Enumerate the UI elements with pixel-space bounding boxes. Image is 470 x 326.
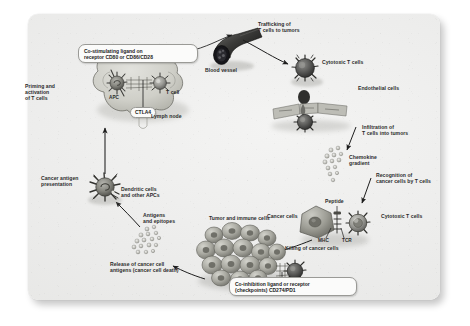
label-cancer-antigen-presentation: Cancer antigen presentation bbox=[41, 175, 91, 187]
callout-co-stimulating-ligand: Co-stimulating ligand on receptor CD80 o… bbox=[78, 44, 198, 63]
label-apc: APC bbox=[109, 95, 119, 101]
label-release-antigens: Release of cancer cell antigens (cancer … bbox=[110, 261, 188, 273]
label-cytotoxic-t-cells-right: Cytotoxic T cells bbox=[381, 213, 422, 219]
label-tcr: TCR bbox=[342, 238, 352, 244]
label-infiltration: Infiltration of T cells into tumors bbox=[362, 124, 422, 136]
label-chemokine-gradient: Chemokine gradient bbox=[349, 154, 393, 166]
label-cancer-cells: Cancer cells bbox=[267, 213, 298, 219]
label-t-cell: T cell bbox=[166, 89, 179, 95]
label-antigens-epitopes: Antigens and epitopes bbox=[143, 212, 183, 224]
label-recognition: Recognition of cancer cells by T cells bbox=[376, 172, 442, 184]
label-mhc: MHC bbox=[318, 238, 329, 244]
label-tumor-immune-cells: Tumor and immune cells bbox=[209, 215, 270, 221]
label-endothelial-cells: Endothelial cells bbox=[358, 85, 399, 91]
label-dendritic-cells: Dendritic cells and other APCs bbox=[121, 186, 173, 198]
label-priming-activation: Priming and activation of T cells bbox=[25, 83, 71, 101]
label-killing: Killing of cancer cells bbox=[285, 245, 339, 251]
label-peptide: Peptide bbox=[325, 198, 344, 204]
label-cytotoxic-t-cells-top: Cytotoxic T cells bbox=[322, 59, 363, 65]
label-lymph-node: Lymph node bbox=[151, 113, 182, 119]
callout-co-inhibition-ligand: Co-inhibition ligand or receptor (checkp… bbox=[229, 277, 357, 296]
figure-canvas: Co-stimulating ligand on receptor CD80 o… bbox=[0, 0, 470, 326]
label-blood-vessel: Blood vessel bbox=[205, 67, 237, 73]
label-trafficking: Trafficking of T cells to tumors bbox=[258, 21, 314, 33]
